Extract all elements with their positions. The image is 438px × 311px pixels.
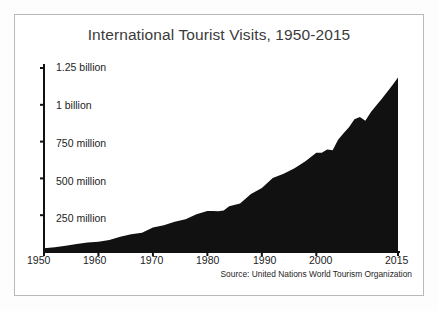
x-tick-label-1980: 1980: [196, 255, 219, 266]
source-note: Source: United Nations World Tourism Org…: [221, 269, 412, 279]
y-tick-label-250m: 250 million: [56, 213, 106, 224]
x-tick-label-1990: 1990: [253, 255, 276, 266]
y-tick-label-1000m: 1 billion: [56, 100, 92, 111]
y-tick-label-500m: 500 million: [56, 176, 106, 187]
x-tick-label-1960: 1960: [83, 255, 106, 266]
x-tick-label-1950: 1950: [27, 255, 50, 266]
area-series-path: [44, 77, 398, 252]
chart-figure: International Tourist Visits, 1950-2015 …: [0, 0, 438, 311]
x-tick-label-2000: 2000: [309, 255, 332, 266]
y-tick-label-750m: 750 million: [56, 138, 106, 149]
x-tick-label-1970: 1970: [140, 255, 163, 266]
x-tick-label-2015: 2015: [385, 255, 408, 266]
y-tick-label-1250m: 1.25 billion: [56, 62, 106, 73]
